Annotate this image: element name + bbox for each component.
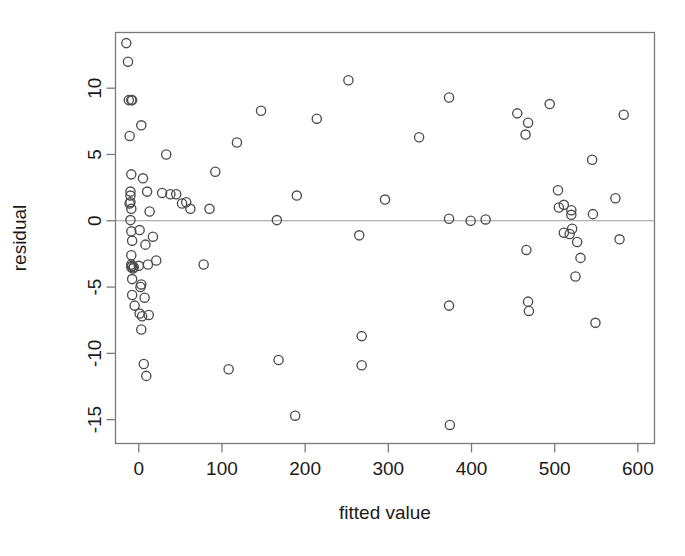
scatter-plot-canvas: 0100200300400500600 1050-5-10-15 fitted … [0,0,685,556]
cropped-title-artifact [395,0,525,7]
y-tick-label: -5 [84,279,105,296]
x-tick-label: 200 [289,458,321,479]
y-tick-label: 0 [84,215,105,226]
x-tick-label: 600 [622,458,654,479]
y-tick-label: -15 [84,406,105,433]
x-tick-label: 400 [456,458,488,479]
y-tick-label: 10 [84,78,105,99]
y-axis-title: residual [9,205,30,272]
x-tick-label: 0 [134,458,145,479]
x-tick-label: 500 [539,458,571,479]
y-tick-label: 5 [84,149,105,160]
x-tick-label: 300 [372,458,404,479]
y-tick-label: -10 [84,340,105,367]
x-axis-title: fitted value [339,502,431,523]
x-tick-label: 100 [206,458,238,479]
residual-plot-figure: 0100200300400500600 1050-5-10-15 fitted … [0,0,685,556]
